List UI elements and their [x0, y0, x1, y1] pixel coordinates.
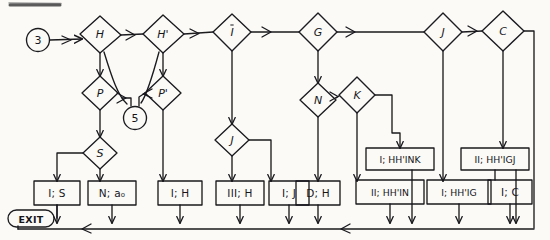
box-I-J-shape: [269, 181, 309, 205]
connector-5-shape: [124, 107, 147, 130]
edge-J-to-C: [462, 31, 482, 32]
decision-K-shape: [339, 77, 375, 113]
edge-K-right-rail: [375, 95, 400, 148]
start-3-shape: [27, 29, 50, 52]
box-II-HHpIN-shape: [356, 180, 424, 204]
edge-N-to-K-arrow: [330, 92, 338, 101]
edge-Hprime-loop-arc: [141, 52, 159, 103]
box-I-HHpIG-shape: [427, 180, 491, 204]
decision-P-shape: [82, 76, 118, 110]
decision-C-shape: [482, 11, 524, 51]
flowchart-canvas: 3 5 H H' I G J C P P' N K S J I; S N; a₀…: [0, 0, 550, 240]
box-I-HHpINK-shape: [366, 148, 434, 170]
box-D-H-shape: [296, 181, 340, 205]
box-I-H-shape: [158, 181, 202, 205]
decision-S-shape: [83, 137, 117, 169]
decision-G-shape: [299, 13, 337, 51]
decision-J-mid-shape: [215, 124, 249, 156]
edge-H-to-Hprime: [121, 34, 143, 35]
edge-S-to-box-I-S: [57, 153, 83, 181]
decision-Hprime-shape: [143, 15, 184, 53]
decision-H-shape: [80, 16, 121, 53]
exit-terminal-shape: [8, 210, 54, 227]
box-II-HHpIGJ-shape: [461, 148, 529, 170]
edge-J-mid-to-box-I-J: [249, 140, 271, 181]
edge-3-to-H: [50, 39, 82, 40]
box-I-C-shape: [488, 180, 532, 204]
decision-J-top-shape: [424, 13, 462, 51]
decision-I-shape: [213, 14, 251, 51]
box-N-a0-shape: [88, 181, 136, 205]
corner-ink-mark: [9, 3, 61, 5]
box-III-H-shape: [216, 181, 264, 205]
box-I-S-shape: [34, 181, 80, 205]
flowchart-svg: [0, 0, 550, 240]
